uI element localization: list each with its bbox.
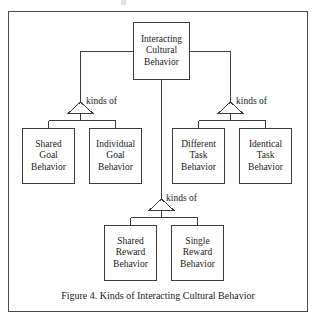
node-identical-task-behavior[interactable]: Identical Task Behavior <box>239 128 292 184</box>
node-label-line: Reward <box>183 247 213 258</box>
node-label-line: Behavior <box>144 57 179 68</box>
node-label-line: Behavior <box>98 162 133 173</box>
relation-label-kinds-of-right: kinds of <box>236 96 267 106</box>
figure-diagram: Interacting Cultural Behavior Shared Goa… <box>0 0 319 324</box>
node-different-task-behavior[interactable]: Different Task Behavior <box>172 128 225 184</box>
scan-artifact-speck <box>121 0 126 5</box>
node-label-line: Goal <box>39 150 57 161</box>
node-label-line: Behavior <box>248 162 283 173</box>
node-label-line: Single <box>185 236 209 247</box>
node-label-line: Reward <box>116 247 146 258</box>
node-label-line: Behavior <box>31 162 66 173</box>
relation-label-kinds-of-bottom: kinds of <box>166 193 197 203</box>
node-label-line: Interacting <box>141 34 182 45</box>
node-single-reward-behavior[interactable]: Single Reward Behavior <box>171 225 224 281</box>
node-label-line: Shared <box>35 139 61 150</box>
node-label-line: Shared <box>117 236 143 247</box>
node-label-line: Cultural <box>146 45 177 56</box>
node-label-line: Goal <box>106 150 124 161</box>
node-individual-goal-behavior[interactable]: Individual Goal Behavior <box>89 128 142 184</box>
figure-caption: Figure 4. Kinds of Interacting Cultural … <box>8 290 308 301</box>
node-shared-goal-behavior[interactable]: Shared Goal Behavior <box>22 128 75 184</box>
node-label-line: Task <box>190 150 208 161</box>
relation-label-kinds-of-left: kinds of <box>86 96 117 106</box>
node-interacting-cultural-behavior[interactable]: Interacting Cultural Behavior <box>133 22 190 80</box>
node-label-line: Behavior <box>113 259 148 270</box>
node-label-line: Identical <box>249 139 282 150</box>
node-label-line: Individual <box>96 139 135 150</box>
node-label-line: Task <box>257 150 275 161</box>
node-label-line: Different <box>181 139 216 150</box>
node-label-line: Behavior <box>181 162 216 173</box>
node-label-line: Behavior <box>180 259 215 270</box>
node-shared-reward-behavior[interactable]: Shared Reward Behavior <box>104 225 157 281</box>
